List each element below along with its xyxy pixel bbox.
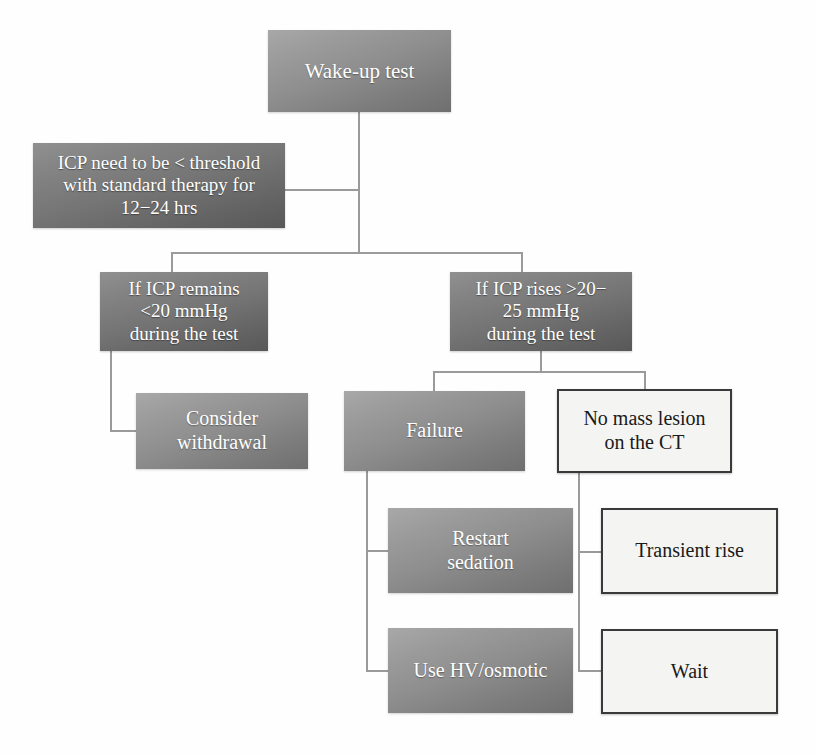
connector-icp-threshold-stub <box>284 189 359 191</box>
connector-restart-sedation-stub <box>366 550 389 552</box>
node-no-mass-lesion-label: No mass lesion on the CT <box>577 407 711 454</box>
node-icp-remains[interactable]: If ICP remains <20 mmHg during the test <box>100 272 268 351</box>
node-wait[interactable]: Wait <box>601 629 778 714</box>
node-icp-rises[interactable]: If ICP rises >20− 25 mmHg during the tes… <box>450 272 632 351</box>
connector-no-mass-lesion-drop <box>644 371 646 390</box>
node-wait-label: Wait <box>665 660 714 684</box>
connector-transient-rise-stub <box>578 551 602 553</box>
node-transient-rise[interactable]: Transient rise <box>601 508 778 594</box>
node-failure-label: Failure <box>400 419 469 443</box>
connector-no-mass-lesion-spine <box>578 472 580 671</box>
connector-use-hv-osmotic-stub <box>366 670 389 672</box>
connector-branch-bar-2 <box>433 371 645 373</box>
connector-failure-spine <box>366 470 368 672</box>
node-icp-rises-label: If ICP rises >20− 25 mmHg during the tes… <box>469 278 612 345</box>
connector-wait-stub <box>578 670 602 672</box>
connector-failure-drop <box>433 371 435 392</box>
node-consider-withdrawal-label: Consider withdrawal <box>171 407 273 454</box>
connector-branch-left-drop <box>171 252 173 273</box>
node-wake-up-test[interactable]: Wake-up test <box>268 30 451 112</box>
connector-icp-rises-trunk <box>540 350 542 372</box>
connector-consider-withdrawal-stub <box>110 430 137 432</box>
node-transient-rise-label: Transient rise <box>629 539 750 563</box>
connector-icp-remains-down <box>110 350 112 431</box>
node-restart-sedation-label: Restart sedation <box>441 527 520 574</box>
node-icp-remains-label: If ICP remains <20 mmHg during the test <box>122 278 245 345</box>
node-use-hv-osmotic[interactable]: Use HV/osmotic <box>388 628 573 713</box>
node-consider-withdrawal[interactable]: Consider withdrawal <box>136 393 308 469</box>
node-icp-threshold-label: ICP need to be < threshold with standard… <box>52 152 267 219</box>
node-restart-sedation[interactable]: Restart sedation <box>388 508 573 593</box>
node-use-hv-osmotic-label: Use HV/osmotic <box>408 659 554 683</box>
connector-branch-bar-1 <box>171 252 522 254</box>
node-icp-threshold[interactable]: ICP need to be < threshold with standard… <box>33 143 285 228</box>
connector-wakeup-trunk <box>358 112 360 253</box>
node-no-mass-lesion[interactable]: No mass lesion on the CT <box>557 389 732 473</box>
connector-branch-right-drop <box>521 252 523 273</box>
flowchart-canvas: Wake-up test ICP need to be < threshold … <box>0 0 816 755</box>
node-failure[interactable]: Failure <box>344 391 525 471</box>
node-wake-up-test-label: Wake-up test <box>299 59 421 84</box>
